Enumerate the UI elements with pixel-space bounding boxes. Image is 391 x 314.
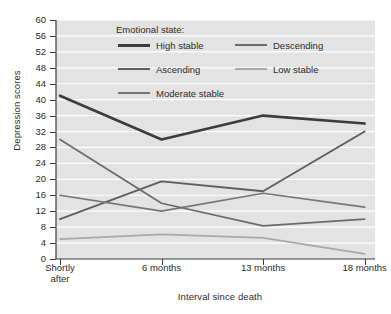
x-tick-label: Shortlyafter xyxy=(45,263,75,284)
legend-swatch-ascending xyxy=(118,68,150,70)
legend-swatch-low-stable xyxy=(235,68,267,70)
legend-label-descending: Descending xyxy=(273,40,323,51)
legend-swatch-descending xyxy=(235,44,267,46)
x-tick-label-line: 13 months xyxy=(241,263,285,274)
x-tick-label: 13 months xyxy=(241,263,285,274)
legend-label-ascending: Ascending xyxy=(156,64,200,75)
plot-background xyxy=(56,20,375,259)
legend-label-high-stable: High stable xyxy=(156,40,204,51)
x-tick-label-line: 6 months xyxy=(142,263,181,274)
depression-scores-line-chart: Depression scores 0481216202428323640444… xyxy=(0,0,391,314)
x-tick-label-line: after xyxy=(45,274,75,285)
legend-swatch-high-stable xyxy=(118,44,150,47)
x-axis-title: Interval since death xyxy=(60,291,380,302)
x-tick-label: 18 months xyxy=(342,263,386,274)
legend-swatch-moderate-stable xyxy=(118,92,150,94)
x-tick-label-line: Shortly xyxy=(45,263,75,274)
x-tick-label-line: 18 months xyxy=(342,263,386,274)
legend-title: Emotional state: xyxy=(116,24,184,35)
legend-label-moderate-stable: Moderate stable xyxy=(156,88,224,99)
x-tick-label: 6 months xyxy=(142,263,181,274)
legend-label-low-stable: Low stable xyxy=(273,64,318,75)
